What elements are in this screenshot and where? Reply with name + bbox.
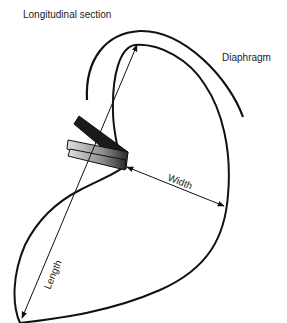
diaphragm-outer-curve bbox=[87, 31, 243, 117]
kidney-diagram: Width Length bbox=[0, 0, 287, 323]
ultrasound-probe-icon bbox=[67, 116, 128, 170]
length-arrow bbox=[22, 45, 137, 318]
